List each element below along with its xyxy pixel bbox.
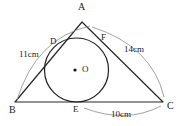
vertex-label-b: B [9, 105, 16, 115]
circle-center-dot [73, 68, 76, 71]
tangent-label-f: F [101, 33, 106, 42]
figure-canvas [0, 0, 185, 126]
side-length-ab: 11cm [19, 50, 39, 59]
geometry-figure: A B C D E F O 11cm 14cm 10cm [0, 0, 185, 126]
side-length-bc: 10cm [111, 110, 131, 119]
circle-center-label: O [82, 65, 89, 74]
triangle-outline [15, 22, 163, 102]
side-length-ac: 14cm [124, 45, 144, 54]
tangent-label-d: D [50, 37, 57, 46]
tangent-label-e: E [73, 105, 79, 114]
vertex-label-c: C [167, 101, 174, 111]
vertex-label-a: A [78, 2, 85, 12]
